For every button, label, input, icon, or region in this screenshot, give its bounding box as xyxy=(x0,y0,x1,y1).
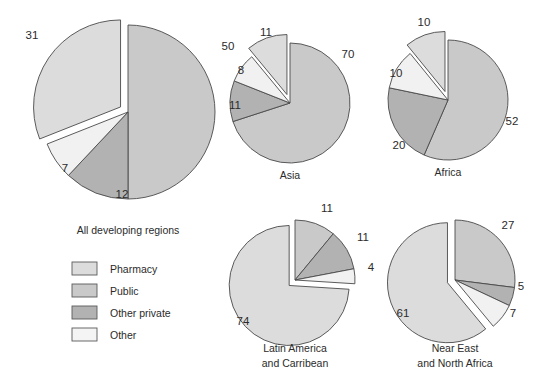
pie-chart-4: 1111474Latin Americaand Carribean xyxy=(229,202,375,369)
pie-value-label-5-2: 7 xyxy=(510,307,516,319)
pie-title-4: and Carribean xyxy=(262,357,329,369)
pie-value-label-3-2: 10 xyxy=(390,67,403,79)
pie-value-label-5-0: 27 xyxy=(502,219,515,231)
legend-label-public: Public xyxy=(110,285,139,297)
pie-value-label-4-3: 74 xyxy=(237,315,250,327)
pie-title-5: Near East xyxy=(432,342,479,354)
legend-label-other-private: Other private xyxy=(110,307,171,319)
pie-value-label-1-0: 50 xyxy=(222,40,235,52)
pie-value-label-1-2: 7 xyxy=(62,162,68,174)
pie-value-label-3-1: 20 xyxy=(393,139,406,151)
pie-chart-5: 275761Near Eastand North Africa xyxy=(387,219,524,369)
pie-value-label-3-3: 10 xyxy=(418,16,431,28)
legend-swatch-other-private xyxy=(72,306,97,319)
legend-label-other: Other xyxy=(110,329,137,341)
figure-canvas: 5012731All developing regions7011811Asia… xyxy=(0,0,541,381)
pie-value-label-4-1: 11 xyxy=(357,231,369,243)
legend-swatch-pharmacy xyxy=(72,262,97,275)
pie-title-2: Asia xyxy=(280,169,301,181)
pie-slice-1-public xyxy=(128,25,215,199)
pie-value-label-2-2: 8 xyxy=(238,64,244,76)
pie-chart-3: 52201010Africa xyxy=(388,16,518,178)
legend-label-pharmacy: Pharmacy xyxy=(110,263,158,275)
legend-swatch-public xyxy=(72,284,97,297)
pie-value-label-1-3: 31 xyxy=(26,29,39,41)
pie-title-1: All developing regions xyxy=(77,224,180,236)
pie-title-3: Africa xyxy=(435,166,462,178)
pie-value-label-5-1: 5 xyxy=(518,280,524,292)
pie-value-label-3-0: 52 xyxy=(506,115,519,127)
pie-value-label-5-3: 61 xyxy=(397,307,410,319)
legend-swatch-other xyxy=(72,328,97,341)
pie-value-label-2-0: 70 xyxy=(342,48,355,60)
pie-title-4: Latin America xyxy=(263,342,327,354)
pie-value-label-4-2: 4 xyxy=(368,261,375,273)
pie-title-5: and North Africa xyxy=(417,357,492,369)
pie-value-label-2-3: 11 xyxy=(260,26,272,38)
pie-chart-figure: 5012731All developing regions7011811Asia… xyxy=(0,0,541,381)
pie-value-label-1-1: 12 xyxy=(116,188,129,200)
pie-chart-2: 7011811Asia xyxy=(229,26,354,181)
legend: PharmacyPublicOther privateOther xyxy=(72,262,171,341)
pie-value-label-2-1: 11 xyxy=(229,99,241,111)
pie-chart-1: 5012731All developing regions xyxy=(26,20,235,236)
pie-value-label-4-0: 11 xyxy=(321,202,333,214)
